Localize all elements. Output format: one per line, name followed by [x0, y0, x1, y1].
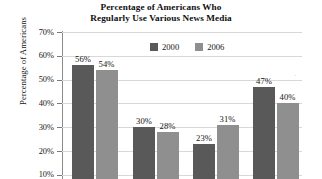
bar-2006-group-4[interactable]: [277, 103, 299, 179]
y-axis-tick-label: 20%: [24, 147, 54, 156]
bar-2000-group-2[interactable]: [133, 127, 155, 179]
y-axis-tick-label: 30%: [24, 123, 54, 132]
y-axis-tick-label: 10%: [24, 170, 54, 179]
bar-2006-group-3[interactable]: [217, 125, 239, 179]
bar-value-label: 56%: [70, 55, 96, 64]
y-axis-tick-label: 70%: [24, 28, 54, 37]
bar-2000-group-1[interactable]: [72, 65, 94, 179]
bar-2000-group-3[interactable]: [193, 144, 215, 179]
bar-value-label: 40%: [275, 93, 301, 102]
bar-value-label: 31%: [215, 115, 241, 124]
chart-title-line-2: Regularly Use Various News Media: [0, 13, 322, 24]
scan-artifact: ·: [294, 74, 299, 78]
bar-chart: Percentage of Americans Who Regularly Us…: [0, 0, 322, 179]
bar-value-label: 54%: [94, 60, 120, 69]
y-axis-tick-label: 60%: [24, 51, 54, 60]
bar-2006-group-2[interactable]: [157, 132, 179, 179]
plot-area: 56%54%30%28%23%31%47%40%: [62, 32, 302, 179]
chart-title-line-1: Percentage of Americans Who: [0, 2, 322, 13]
bar-2000-group-4[interactable]: [253, 87, 275, 179]
bar-value-label: 47%: [251, 77, 277, 86]
bar-value-label: 28%: [155, 122, 181, 131]
chart-title: Percentage of Americans Who Regularly Us…: [0, 2, 322, 24]
bar-2006-group-1[interactable]: [96, 70, 118, 179]
y-axis-tick-label: 50%: [24, 75, 54, 84]
bar-value-label: 30%: [131, 117, 157, 126]
bar-value-label: 23%: [191, 134, 217, 143]
y-axis-tick-label: 40%: [24, 99, 54, 108]
